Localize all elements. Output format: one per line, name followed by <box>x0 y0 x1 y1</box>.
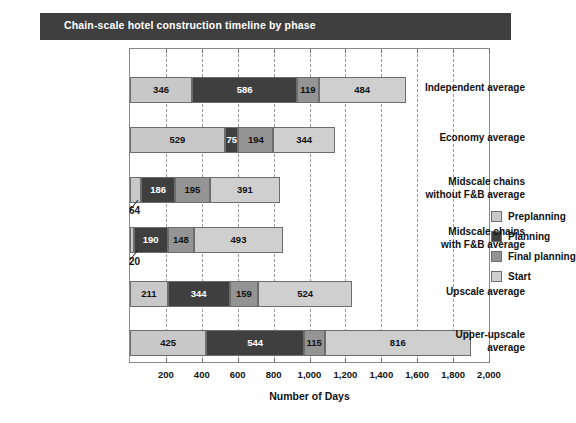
legend-swatch-icon <box>491 251 502 262</box>
axis-tick <box>166 49 167 53</box>
chart-title-banner: Chain-scale hotel construction timeline … <box>40 13 511 40</box>
category-label-line: Upper-upscale <box>401 329 525 342</box>
axis-tick <box>274 358 275 362</box>
axis-tick <box>417 49 418 53</box>
bar-segment-preplanning[interactable]: 211 <box>130 281 168 307</box>
axis-tick <box>310 358 311 362</box>
segment-value-label: 344 <box>296 135 312 145</box>
segment-value-label: 586 <box>237 85 253 95</box>
axis-tick <box>453 358 454 362</box>
category-label-line: Upscale average <box>401 286 525 299</box>
segment-value-label: 195 <box>184 185 200 195</box>
axis-tick <box>489 358 490 362</box>
axis-tick <box>381 49 382 53</box>
category-label: Midscale chainswith F&B average <box>401 226 525 251</box>
legend-item[interactable]: Start <box>491 267 576 286</box>
category-label: Independent average <box>401 82 525 95</box>
segment-value-label: 211 <box>141 289 156 299</box>
page-title: Chain-scale hotel construction timeline … <box>64 19 316 31</box>
gridline <box>453 49 454 362</box>
axis-tick <box>202 49 203 53</box>
segment-value-label: 148 <box>173 235 189 245</box>
axis-tick <box>453 49 454 53</box>
category-label-line: average <box>401 342 525 355</box>
segment-value-label: 391 <box>237 185 253 195</box>
segment-value-label: 159 <box>236 289 252 299</box>
bar-segment-preplanning[interactable]: 425 <box>130 330 206 356</box>
axis-tick <box>202 358 203 362</box>
category-label-line: Economy average <box>401 132 525 145</box>
callout-value-label: 20 <box>129 256 140 267</box>
bar-segment-final-planning[interactable]: 195 <box>175 177 210 203</box>
bar-segment-start[interactable]: 493 <box>194 227 282 253</box>
bar-segment-planning[interactable]: 544 <box>206 330 304 356</box>
category-label: Upscale average <box>401 286 525 299</box>
legend-label: Preplanning <box>508 211 566 222</box>
bar-segment-final-planning[interactable]: 194 <box>238 127 273 153</box>
axis-tick <box>489 49 490 53</box>
segment-value-label: 194 <box>248 135 264 145</box>
legend-label: Start <box>508 271 531 282</box>
bar-segment-preplanning[interactable]: 346 <box>130 77 192 103</box>
legend-label: Final planning <box>508 251 576 262</box>
axis-tick <box>310 49 311 53</box>
segment-value-label: 529 <box>170 135 186 145</box>
category-label: Midscale chainswithout F&B average <box>401 176 525 201</box>
category-label-line: without F&B average <box>401 189 525 202</box>
plot-area: 3465861194845297519434418619539119014849… <box>129 48 490 363</box>
segment-value-label: 524 <box>297 289 313 299</box>
x-tick-label: 2,000 <box>466 369 512 380</box>
bar-segment-start[interactable]: 484 <box>319 77 406 103</box>
segment-value-label: 186 <box>150 185 166 195</box>
category-label-line: Midscale chains <box>401 176 525 189</box>
axis-tick <box>417 358 418 362</box>
gridline <box>417 49 418 362</box>
bar-segment-planning[interactable]: 586 <box>192 77 297 103</box>
segment-value-label: 346 <box>153 85 169 95</box>
bar-segment-final-planning[interactable]: 119 <box>297 77 318 103</box>
segment-value-label: 115 <box>307 338 322 348</box>
bar-segment-final-planning[interactable]: 159 <box>230 281 259 307</box>
category-label: Upper-upscaleaverage <box>401 329 525 354</box>
bar-segment-planning[interactable]: 75 <box>225 127 238 153</box>
callout-value-label: 64 <box>129 205 140 216</box>
segment-value-label: 344 <box>191 289 207 299</box>
axis-tick <box>238 49 239 53</box>
bar-segment-planning[interactable]: 344 <box>168 281 230 307</box>
category-label: Economy average <box>401 132 525 145</box>
category-label-line: Independent average <box>401 82 525 95</box>
segment-value-label: 190 <box>143 235 159 245</box>
axis-tick <box>345 358 346 362</box>
segment-value-label: 425 <box>160 338 176 348</box>
axis-tick <box>381 358 382 362</box>
bar-segment-start[interactable]: 344 <box>273 127 335 153</box>
bar-segment-start[interactable]: 391 <box>210 177 280 203</box>
legend-swatch-icon <box>491 271 502 282</box>
legend-item[interactable]: Preplanning <box>491 207 576 226</box>
bar-segment-planning[interactable]: 186 <box>141 177 174 203</box>
segment-value-label: 493 <box>231 235 247 245</box>
axis-tick <box>345 49 346 53</box>
legend-swatch-icon <box>491 211 502 222</box>
axis-tick <box>238 358 239 362</box>
axis-tick <box>166 358 167 362</box>
x-axis-title: Number of Days <box>265 390 355 402</box>
category-label-line: with F&B average <box>401 239 525 252</box>
bar-segment-start[interactable]: 524 <box>258 281 352 307</box>
category-label-line: Midscale chains <box>401 226 525 239</box>
segment-value-label: 75 <box>226 135 237 145</box>
bar-segment-final-planning[interactable]: 148 <box>168 227 195 253</box>
axis-tick <box>274 49 275 53</box>
segment-value-label: 544 <box>247 338 263 348</box>
bar-segment-final-planning[interactable]: 115 <box>304 330 325 356</box>
bar-segment-preplanning[interactable]: 529 <box>130 127 225 153</box>
segment-value-label: 119 <box>300 85 315 95</box>
segment-value-label: 484 <box>354 85 370 95</box>
